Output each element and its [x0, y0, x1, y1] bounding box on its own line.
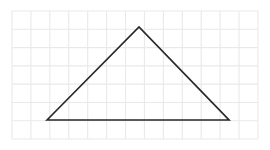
figure-background: [0, 0, 270, 150]
geometry-figure: [0, 0, 270, 150]
figure-container: [0, 0, 270, 150]
